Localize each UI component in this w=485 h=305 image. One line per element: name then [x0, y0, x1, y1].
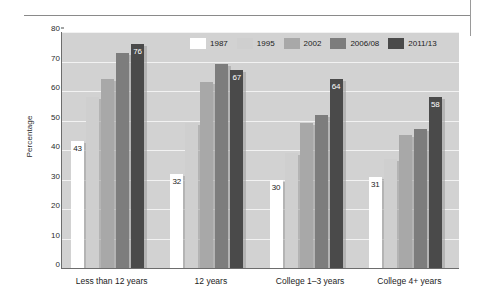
- legend-swatch: [388, 38, 404, 49]
- bar[interactable]: 76: [131, 44, 144, 268]
- legend-label: 2002: [304, 39, 322, 48]
- y-axis-tick-label: 50: [36, 112, 60, 121]
- legend-label: 2006/08: [350, 39, 379, 48]
- bar-fill: [429, 97, 442, 268]
- y-axis-tick-label: 60: [36, 83, 60, 92]
- bar-group: 3158: [360, 32, 459, 268]
- y-axis-tick-label: 40: [36, 142, 60, 151]
- bar[interactable]: [101, 79, 114, 268]
- bar[interactable]: 30: [270, 180, 283, 269]
- bar-group: 3267: [161, 32, 260, 268]
- bar[interactable]: 64: [330, 79, 343, 268]
- bar[interactable]: [185, 123, 198, 268]
- top-divider-rule: [24, 15, 470, 16]
- legend-item[interactable]: 2006/08: [330, 38, 379, 49]
- bar-fill: [414, 129, 427, 268]
- bar[interactable]: [285, 153, 298, 268]
- bar[interactable]: [116, 53, 129, 268]
- legend-swatch: [190, 38, 206, 49]
- y-axis-tick-label: 10: [36, 230, 60, 239]
- bar[interactable]: [300, 123, 313, 268]
- y-axis-tick-label: 0: [36, 260, 60, 269]
- x-axis-category-labels: Less than 12 years12 yearsCollege 1–3 ye…: [62, 276, 459, 292]
- bar-value-label: 31: [369, 180, 382, 190]
- bar-fill: [215, 64, 228, 268]
- x-axis-category-label: 12 years: [161, 276, 260, 286]
- bar-value-label: 58: [429, 100, 442, 110]
- x-axis-category-label: Less than 12 years: [62, 276, 161, 286]
- bar[interactable]: 58: [429, 97, 442, 268]
- bar-fill: [101, 79, 114, 268]
- bar-fill: [384, 159, 397, 268]
- bar[interactable]: [215, 64, 228, 268]
- x-axis-line: [61, 268, 459, 269]
- legend-label: 1987: [210, 39, 228, 48]
- bar[interactable]: [414, 129, 427, 268]
- bar-fill: [270, 180, 283, 269]
- bar-fill: [86, 97, 99, 268]
- bar-fill: [185, 123, 198, 268]
- bar[interactable]: [399, 135, 412, 268]
- legend-label: 2011/13: [408, 39, 436, 48]
- bar-fill: [315, 115, 328, 268]
- plot-area: 4376326730643158: [62, 32, 459, 268]
- bar[interactable]: 67: [230, 70, 243, 268]
- bar-fill: [116, 53, 129, 268]
- y-axis-tick-mark: [61, 28, 64, 29]
- y-axis-tick-label: 30: [36, 171, 60, 180]
- bar-value-label: 30: [270, 183, 283, 193]
- bar-chart-figure: Percentage 01020304050607080 43763267306…: [0, 0, 485, 305]
- bar-fill: [230, 70, 243, 268]
- legend-item[interactable]: 1987: [190, 38, 228, 49]
- bar-value-label: 67: [230, 73, 243, 83]
- legend-label: 1995: [257, 39, 275, 48]
- bar-fill: [285, 153, 298, 268]
- bar[interactable]: 43: [71, 141, 84, 268]
- chart-legend: 1987199520022006/082011/13: [190, 38, 446, 49]
- bar-fill: [330, 79, 343, 268]
- bar-fill: [200, 82, 213, 268]
- bar-value-label: 76: [131, 47, 144, 57]
- bar-value-label: 64: [330, 82, 343, 92]
- bar[interactable]: 31: [369, 177, 382, 268]
- bar-fill: [131, 44, 144, 268]
- bar-fill: [399, 135, 412, 268]
- x-axis-category-label: College 4+ years: [360, 276, 459, 286]
- bar-fill: [71, 141, 84, 268]
- bar-value-label: 43: [71, 144, 84, 154]
- bar[interactable]: [200, 82, 213, 268]
- crop-registration-mark: [470, 0, 471, 36]
- bar-group: 3064: [261, 32, 360, 268]
- bar[interactable]: [315, 115, 328, 268]
- bar-fill: [369, 177, 382, 268]
- legend-swatch: [330, 38, 346, 49]
- legend-swatch: [237, 38, 253, 49]
- bar-value-label: 32: [170, 177, 183, 187]
- bar[interactable]: 32: [170, 174, 183, 268]
- y-axis-title: Percentage: [25, 92, 34, 182]
- bar-group: 4376: [62, 32, 161, 268]
- legend-item[interactable]: 2011/13: [388, 38, 436, 49]
- y-axis-tick-labels: 01020304050607080: [36, 28, 60, 268]
- x-axis-category-label: College 1–3 years: [261, 276, 360, 286]
- y-axis-tick-label: 70: [36, 53, 60, 62]
- bar-fill: [300, 123, 313, 268]
- bar[interactable]: [86, 97, 99, 268]
- legend-swatch: [284, 38, 300, 49]
- bar-fill: [170, 174, 183, 268]
- legend-item[interactable]: 1995: [237, 38, 275, 49]
- bar[interactable]: [384, 159, 397, 268]
- y-axis-tick-label: 20: [36, 201, 60, 210]
- y-axis-tick-label: 80: [36, 24, 60, 33]
- legend-item[interactable]: 2002: [284, 38, 322, 49]
